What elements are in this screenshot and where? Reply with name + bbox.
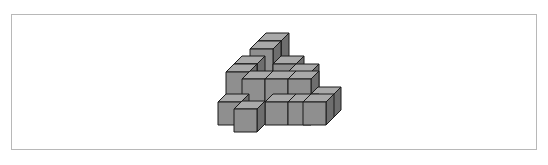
cube-stack-figure [0, 0, 548, 165]
unit-cube [303, 94, 334, 125]
cube-stack [218, 33, 341, 132]
unit-cube [234, 101, 265, 132]
